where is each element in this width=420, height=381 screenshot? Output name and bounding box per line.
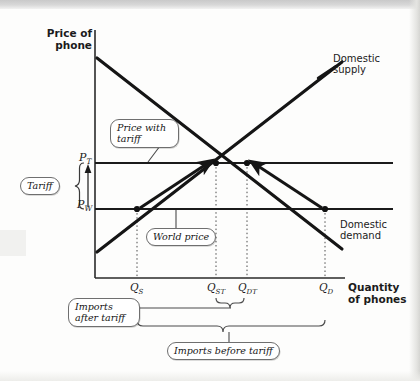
price-tick-pt-sub: T (86, 157, 91, 166)
x-axis-title-line2: of phones (348, 294, 407, 306)
quantity-tick-qdt: QDT (238, 281, 257, 296)
callout-price-with-tariff-line2: tariff (117, 133, 172, 144)
domestic-demand-label-line2: demand (340, 230, 387, 241)
supply-response-arrow (140, 165, 205, 208)
domestic-supply-curve (97, 62, 342, 252)
market-point-markers (134, 160, 328, 212)
point-qst-pt (213, 160, 219, 166)
quantity-tick-qst-base: Q (207, 281, 216, 293)
x-axis-title-line1: Quantity (348, 282, 407, 294)
callout-imports-before-tariff: Imports before tariff (167, 342, 280, 360)
x-axis-title: Quantity of phones (348, 282, 407, 306)
quantity-tick-qdt-sub: DT (247, 288, 257, 296)
price-with-tariff-leader (148, 146, 160, 162)
demand-response-arrow (258, 166, 322, 208)
callout-tariff: Tariff (20, 177, 60, 195)
domestic-supply-label-line2: supply (333, 64, 380, 75)
callout-price-with-tariff-line1: Price with (117, 122, 172, 133)
price-tick-pw-sub: W (84, 204, 92, 213)
tariff-diagram-figure: Price of phone Quantity of phones PT PW … (0, 0, 420, 381)
y-axis-title-line2: phone (44, 40, 92, 52)
quantity-tick-qdt-base: Q (238, 281, 247, 293)
point-qd-pw (322, 206, 328, 212)
callout-world-price: World price (146, 228, 216, 246)
callout-price-with-tariff: Price with tariff (110, 119, 179, 148)
domestic-demand-label: Domestic demand (340, 219, 387, 241)
y-axis-title: Price of phone (44, 28, 92, 52)
quantity-tick-qst-sub: ST (216, 288, 225, 296)
callout-imports-after-tariff-line1: Imports (75, 301, 133, 312)
callout-imports-after-tariff-line2: after tariff (75, 312, 133, 323)
imports-after-tariff-brace (216, 298, 244, 308)
price-tick-pt: PT (79, 152, 91, 167)
domestic-demand-label-line1: Domestic (340, 219, 387, 230)
quantity-tick-qst: QST (207, 281, 225, 296)
callout-imports-after-tariff: Imports after tariff (68, 298, 140, 327)
y-axis-title-line1: Price of (44, 28, 92, 40)
quantity-tick-qd-base: Q (319, 281, 328, 293)
imports-before-tariff-brace (137, 320, 325, 332)
quantity-tick-qs-sub: S (139, 288, 144, 296)
quantity-tick-qd: QD (319, 281, 333, 296)
quantity-guide-lines (137, 163, 325, 278)
domestic-supply-label: Domestic supply (333, 53, 380, 75)
point-qs-pw (134, 206, 140, 212)
quantity-tick-qs: QS (130, 281, 143, 296)
domestic-supply-label-line1: Domestic (333, 53, 380, 64)
price-tick-pw: PW (77, 199, 92, 214)
point-qdt-pt (244, 160, 250, 166)
quantity-tick-qs-base: Q (130, 281, 139, 293)
quantity-tick-qd-sub: D (328, 288, 334, 296)
domestic-demand-curve (97, 58, 342, 249)
